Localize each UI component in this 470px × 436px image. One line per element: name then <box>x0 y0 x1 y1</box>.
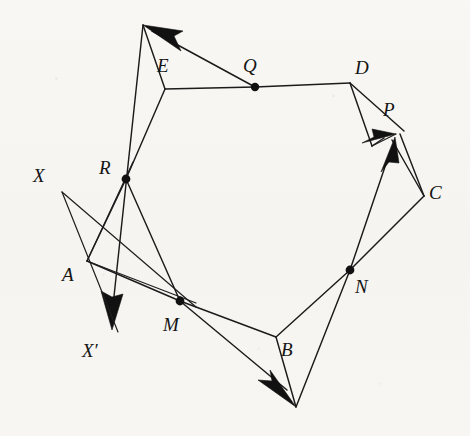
ray-N-to-P <box>350 152 390 270</box>
geometry-drawing <box>0 0 470 436</box>
ray-X-to-M <box>62 192 196 307</box>
label-D: D <box>355 58 369 77</box>
dot-R <box>122 175 131 184</box>
label-C: C <box>429 183 442 202</box>
label-B: B <box>281 340 293 359</box>
arrowhead-top-apex <box>143 25 183 51</box>
label-A: A <box>62 265 74 284</box>
label-Q: Q <box>243 56 257 75</box>
label-M: M <box>163 315 179 334</box>
label-X: X <box>33 166 45 185</box>
figure-canvas: E Q D P C N B M A R X X′ <box>0 0 470 436</box>
ray-R-through-M-to-bottom <box>126 179 287 390</box>
label-R: R <box>99 158 111 177</box>
dot-M <box>176 297 185 306</box>
label-E: E <box>157 56 169 75</box>
dot-N <box>346 266 355 275</box>
label-N: N <box>355 277 368 296</box>
label-P: P <box>383 100 395 119</box>
dot-Q <box>251 83 259 91</box>
arrowhead-P-from-N <box>381 137 399 172</box>
ray-apex-to-X-prime <box>112 25 143 315</box>
edge-P-to-C <box>400 134 424 196</box>
edge-N-to-bottom-apex <box>296 270 350 407</box>
label-X-prime: X′ <box>82 341 98 360</box>
